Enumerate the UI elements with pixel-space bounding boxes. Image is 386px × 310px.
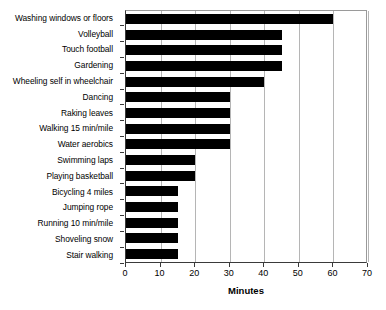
bar [126, 77, 264, 87]
bar-slot [126, 137, 366, 153]
bar-slot [126, 105, 366, 121]
value-tick [194, 263, 195, 267]
value-tick-label: 20 [189, 268, 199, 278]
bar [126, 139, 230, 149]
bar [126, 202, 178, 212]
bar-slot [126, 27, 366, 43]
bar [126, 30, 282, 40]
category-label: Bicycling 4 miles [0, 184, 118, 200]
category-label: Running 10 min/mile [0, 216, 118, 232]
bar-slot [126, 152, 366, 168]
bar [126, 45, 282, 55]
bar-slot [126, 215, 366, 231]
category-label: Raking leaves [0, 105, 118, 121]
category-label: Playing basketball [0, 168, 118, 184]
value-tick-label: 40 [258, 268, 268, 278]
bar [126, 108, 230, 118]
category-label: Washing windows or floors [0, 10, 118, 26]
bar-slot [126, 121, 366, 137]
value-axis-title: Minutes [125, 285, 367, 296]
category-label: Volleyball [0, 26, 118, 42]
bar-slot [126, 184, 366, 200]
category-label: Wheeling self in wheelchair [0, 73, 118, 89]
category-label: Walking 15 min/mile [0, 121, 118, 137]
bar-slot [126, 199, 366, 215]
category-label: Jumping rope [0, 200, 118, 216]
bar-series [126, 11, 366, 262]
bar [126, 61, 282, 71]
category-label: Swimming laps [0, 152, 118, 168]
category-label: Water aerobics [0, 137, 118, 153]
gridline [368, 11, 369, 262]
bar [126, 233, 178, 243]
bar [126, 124, 230, 134]
value-axis-tick-labels: 010203040506070 [0, 268, 386, 282]
category-axis-labels: Washing windows or floorsVolleyballTouch… [0, 10, 118, 263]
value-tick-label: 30 [224, 268, 234, 278]
bar [126, 155, 195, 165]
bar-slot [126, 58, 366, 74]
category-label: Stair walking [0, 247, 118, 263]
bar-slot [126, 42, 366, 58]
value-tick [160, 263, 161, 267]
tick-mark [120, 263, 124, 264]
category-label: Dancing [0, 89, 118, 105]
value-tick-label: 60 [327, 268, 337, 278]
horizontal-bar-chart: Washing windows or floorsVolleyballTouch… [0, 0, 386, 310]
value-tick-label: 10 [155, 268, 165, 278]
bar-slot [126, 231, 366, 247]
bar [126, 186, 178, 196]
bar [126, 92, 230, 102]
bar [126, 14, 333, 24]
bar-slot [126, 11, 366, 27]
value-tick-label: 50 [293, 268, 303, 278]
bar [126, 218, 178, 228]
bar [126, 171, 195, 181]
bar [126, 249, 178, 259]
bar-slot [126, 89, 366, 105]
value-tick-label: 0 [122, 268, 127, 278]
bar-slot [126, 74, 366, 90]
value-tick [125, 263, 126, 267]
plot-area [125, 10, 367, 263]
category-label: Gardening [0, 57, 118, 73]
bar-slot [126, 246, 366, 262]
value-tick [298, 263, 299, 267]
category-label: Touch football [0, 42, 118, 58]
value-tick [263, 263, 264, 267]
value-tick-label: 70 [362, 268, 372, 278]
value-tick [332, 263, 333, 267]
bar-slot [126, 168, 366, 184]
category-label: Shoveling snow [0, 231, 118, 247]
value-tick [367, 263, 368, 267]
value-tick [229, 263, 230, 267]
